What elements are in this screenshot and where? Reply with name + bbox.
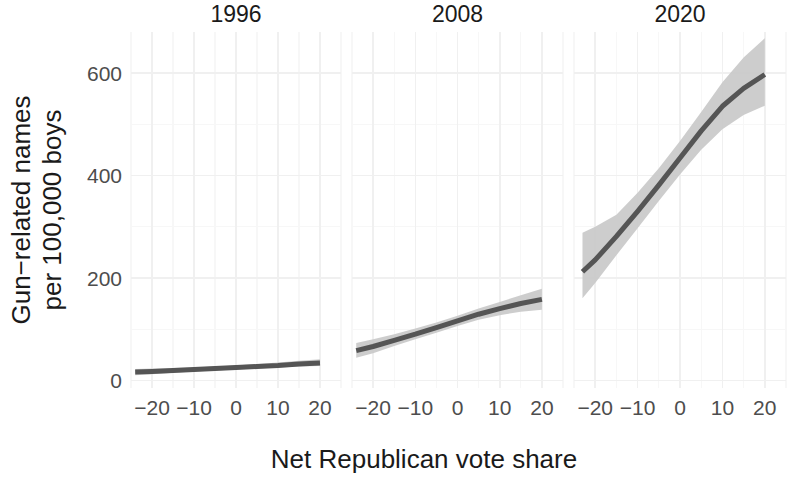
x-axis-tick-label: 0 [674,396,686,419]
y-axis-title-line-2: per 100,000 boys [37,110,67,311]
y-axis-tick-label: 600 [87,62,122,85]
x-axis-tick-label: −20 [134,396,170,419]
y-axis-tick-label: 0 [110,369,122,392]
x-axis-tick-label: 20 [753,396,776,419]
x-axis-tick-label: 0 [230,396,242,419]
faceted-line-chart: 199620082020 0200400600 −20−1001020−20−1… [0,0,796,477]
panel-1996 [131,32,341,388]
y-axis-tick-label: 400 [87,164,122,187]
panel-2020 [574,32,786,388]
chart-container: 199620082020 0200400600 −20−1001020−20−1… [0,0,796,477]
x-axis-tick-label: 0 [452,396,464,419]
y-axis-title-line-1: Gun−related names [6,95,36,324]
x-axis-tick-label: 20 [530,396,553,419]
x-axis-tick-label: 10 [488,396,511,419]
facet-label-1996: 1996 [210,1,261,27]
y-axis-tick-label: 200 [87,267,122,290]
panel-2008 [352,32,563,388]
x-axis-tick-label: −20 [577,396,613,419]
x-axis-tick-labels: −20−1001020−20−1001020−20−1001020 [134,396,776,419]
x-axis-tick-label: −10 [176,396,212,419]
x-axis-tick-label: 20 [308,396,331,419]
x-axis-tick-label: 10 [711,396,734,419]
x-axis-tick-label: −20 [355,396,391,419]
facet-label-2008: 2008 [432,1,483,27]
x-axis-tick-label: 10 [266,396,289,419]
chart-panels [131,32,786,388]
x-axis-title: Net Republican vote share [271,444,577,474]
x-axis-tick-label: −10 [397,396,433,419]
x-axis-tick-label: −10 [620,396,656,419]
facet-label-2020: 2020 [654,1,705,27]
y-axis-title: Gun−related names per 100,000 boys [6,95,67,324]
